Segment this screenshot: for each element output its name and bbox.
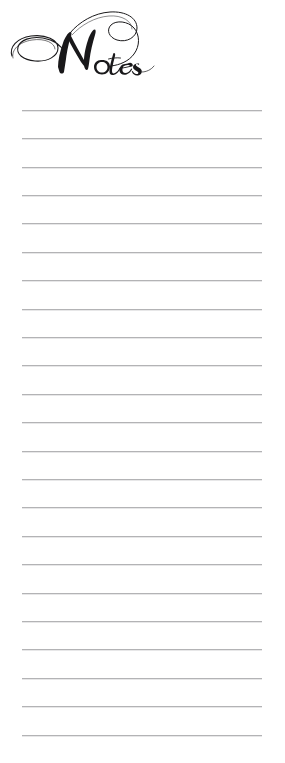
note-line[interactable] [22, 593, 262, 594]
notes-page: Notes [0, 0, 285, 763]
note-line[interactable] [22, 564, 262, 565]
note-line[interactable] [22, 252, 262, 253]
note-line[interactable] [22, 280, 262, 281]
note-line[interactable] [22, 337, 262, 338]
note-line[interactable] [22, 451, 262, 452]
note-line[interactable] [22, 110, 262, 111]
note-line[interactable] [22, 195, 262, 196]
note-line[interactable] [22, 735, 262, 736]
note-line[interactable] [22, 422, 262, 423]
note-line[interactable] [22, 394, 262, 395]
note-line[interactable] [22, 507, 262, 508]
ruled-lines-area [0, 0, 285, 763]
note-line[interactable] [22, 138, 262, 139]
note-line[interactable] [22, 365, 262, 366]
note-line[interactable] [22, 223, 262, 224]
note-line[interactable] [22, 649, 262, 650]
note-line[interactable] [22, 621, 262, 622]
note-line[interactable] [22, 167, 262, 168]
note-line[interactable] [22, 536, 262, 537]
note-line[interactable] [22, 479, 262, 480]
note-line[interactable] [22, 309, 262, 310]
note-line[interactable] [22, 678, 262, 679]
note-line[interactable] [22, 706, 262, 707]
